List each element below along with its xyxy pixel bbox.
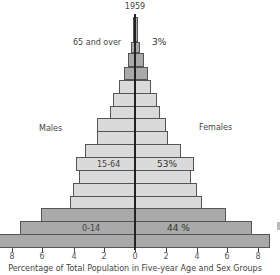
x-tick-label: 8 xyxy=(252,252,264,261)
group-label-0-14: 0-14 xyxy=(82,224,100,233)
population-pyramid-chart: 1959 65 and over 3% Males Females 15-64 … xyxy=(0,0,280,275)
x-axis-label: Percentage of Total Population in Five-y… xyxy=(0,264,270,273)
group-pct-15-64: 53% xyxy=(157,159,177,169)
group-pct-0-14: 44 % xyxy=(167,223,190,233)
bar-row-10 xyxy=(85,144,181,158)
x-tick-label: 2 xyxy=(98,252,110,261)
x-tick-label: 4 xyxy=(68,252,80,261)
group-label-15-64: 15-64 xyxy=(97,160,120,169)
x-tick-label: 6 xyxy=(221,252,233,261)
x-tick-label: 4 xyxy=(191,252,203,261)
edge-fragment xyxy=(277,222,280,230)
bar-row-4 xyxy=(124,67,148,80)
x-tick-label: 2 xyxy=(160,252,172,261)
chart-title-year: 1959 xyxy=(121,2,149,11)
center-axis xyxy=(134,14,136,250)
females-label: Females xyxy=(199,123,232,132)
group-pct-65-over: 3% xyxy=(152,37,166,47)
x-tick-label: 0 xyxy=(129,252,141,261)
x-tick-label: 6 xyxy=(36,252,48,261)
bar-row-8 xyxy=(97,118,166,132)
group-label-65-over: 65 and over xyxy=(73,38,121,47)
bar-row-9 xyxy=(97,131,168,145)
x-tick-label: 8 xyxy=(6,252,18,261)
bar-row-16 xyxy=(20,221,252,235)
males-label: Males xyxy=(39,124,62,133)
bar-row-3 xyxy=(128,53,144,67)
